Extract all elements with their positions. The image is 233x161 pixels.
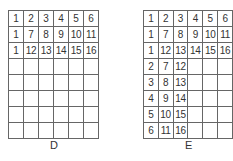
grid-cell: 3 (173, 11, 188, 27)
grid-cell (24, 91, 39, 107)
grid-row: 123456 (144, 11, 233, 27)
grid-row: 51015 (144, 107, 233, 123)
grid-cell (9, 59, 24, 75)
grid-cell: 7 (158, 59, 173, 75)
grid-cell (69, 123, 84, 139)
grid-cell (84, 91, 99, 107)
grid-cell (24, 75, 39, 91)
grid-cell: 13 (39, 43, 54, 59)
grid-cell: 1 (144, 27, 159, 43)
grid-cell: 14 (54, 43, 69, 59)
grid-cell (203, 75, 218, 91)
grid-cell (54, 75, 69, 91)
grid-cell (54, 91, 69, 107)
grid-cell: 2 (24, 11, 39, 27)
grid-cell (9, 123, 24, 139)
grid-row: 3813 (144, 75, 233, 91)
grid-cell (24, 59, 39, 75)
grid-cell: 11 (84, 27, 99, 43)
grid-row (9, 123, 99, 139)
grid-cell (39, 75, 54, 91)
grid-cell: 15 (203, 43, 218, 59)
grid-row: 61116 (144, 123, 233, 139)
grid-cell: 14 (173, 91, 188, 107)
grid-cell (84, 107, 99, 123)
grid-cell (24, 123, 39, 139)
grid-cell (9, 75, 24, 91)
grid-cell (84, 75, 99, 91)
grid-cell (84, 123, 99, 139)
grid-row: 4914 (144, 91, 233, 107)
grid-cell: 6 (144, 123, 159, 139)
grid-d-label: D (50, 139, 58, 151)
grid-cell (24, 107, 39, 123)
grid-cell (188, 123, 203, 139)
grid-cell: 2 (144, 59, 159, 75)
grid-cell: 12 (173, 59, 188, 75)
grid-cell: 7 (158, 27, 173, 43)
grid-row: 17891011 (144, 27, 233, 43)
grid-cell: 13 (173, 43, 188, 59)
grid-cell: 1 (9, 11, 24, 27)
grid-cell: 1 (9, 27, 24, 43)
grid-cell (9, 91, 24, 107)
grid-cell: 9 (188, 27, 203, 43)
grid-cell (218, 59, 233, 75)
grid-cell: 11 (158, 123, 173, 139)
grid-cell: 15 (69, 43, 84, 59)
grid-d: 1234561789101111213141516 (8, 10, 99, 139)
grid-cell: 6 (218, 11, 233, 27)
grid-row: 11213141516 (144, 43, 233, 59)
grid-e: 1234561789101111213141516271238134914510… (143, 10, 233, 139)
grid-cell (69, 107, 84, 123)
grid-cell (69, 59, 84, 75)
grid-cell (84, 59, 99, 75)
grid-row: 11213141516 (9, 43, 99, 59)
grid-cell (218, 123, 233, 139)
grid-cell: 4 (188, 11, 203, 27)
grid-cell: 2 (158, 11, 173, 27)
grid-cell (218, 75, 233, 91)
grid-cell: 16 (173, 123, 188, 139)
grid-cell: 7 (24, 27, 39, 43)
grid-cell: 14 (188, 43, 203, 59)
grid-cell: 11 (218, 27, 233, 43)
grid-cell (54, 123, 69, 139)
grid-cell: 16 (84, 43, 99, 59)
grid-cell (188, 59, 203, 75)
grid-cell: 5 (144, 107, 159, 123)
grid-cell: 1 (9, 43, 24, 59)
grid-e-label: E (185, 139, 192, 151)
grid-cell: 12 (24, 43, 39, 59)
grid-cell (188, 75, 203, 91)
grid-cell: 8 (39, 27, 54, 43)
grid-cell: 10 (69, 27, 84, 43)
grid-cell: 15 (173, 107, 188, 123)
grid-cell: 5 (69, 11, 84, 27)
grid-cell (39, 123, 54, 139)
grid-cell (203, 107, 218, 123)
grid-row: 2712 (144, 59, 233, 75)
grid-cell: 10 (158, 107, 173, 123)
grid-cell: 3 (39, 11, 54, 27)
grid-cell: 5 (203, 11, 218, 27)
grid-cell (188, 91, 203, 107)
grid-cell: 1 (144, 43, 159, 59)
grid-row: 123456 (9, 11, 99, 27)
grid-cell: 9 (54, 27, 69, 43)
grid-cell: 12 (158, 43, 173, 59)
grid-cell: 4 (144, 91, 159, 107)
grid-cell: 16 (218, 43, 233, 59)
grid-cell: 9 (158, 91, 173, 107)
grid-cell (203, 123, 218, 139)
grid-cell (218, 91, 233, 107)
grid-row (9, 75, 99, 91)
grid-cell (9, 107, 24, 123)
grid-cell (218, 107, 233, 123)
grid-cell (203, 59, 218, 75)
grid-row (9, 59, 99, 75)
grid-cell (54, 59, 69, 75)
grid-row (9, 91, 99, 107)
grid-cell (39, 59, 54, 75)
grid-cell: 13 (173, 75, 188, 91)
